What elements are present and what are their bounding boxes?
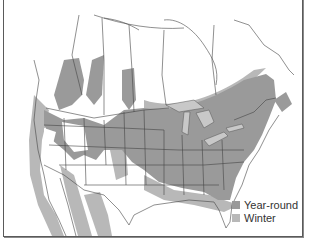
legend-item-year-round: Year-round bbox=[232, 199, 298, 211]
winter-swatch bbox=[232, 214, 240, 222]
legend-label: Year-round bbox=[244, 199, 298, 211]
legend: Year-round Winter bbox=[232, 199, 298, 225]
year-round-swatch bbox=[232, 201, 240, 209]
legend-item-winter: Winter bbox=[232, 212, 298, 224]
legend-label: Winter bbox=[244, 212, 276, 224]
